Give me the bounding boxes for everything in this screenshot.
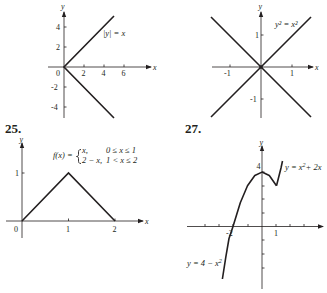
- brace-icon: [77, 150, 82, 164]
- tick-label: 1: [66, 225, 70, 234]
- tick-label: 2: [56, 43, 60, 52]
- case-1-expr: x,: [81, 145, 88, 155]
- y-axis-label: y: [259, 138, 264, 147]
- x-axis-label: x: [314, 63, 319, 72]
- equation-label: y² = x²: [274, 19, 298, 29]
- tick-label: -4: [51, 103, 58, 112]
- graph-abs-y-equals-x: y x 0 2 4 6 4 2 -2 -4 |y| = x: [48, 2, 157, 118]
- tick-label: -1: [250, 95, 257, 104]
- equation-label: |y| = x: [103, 28, 125, 38]
- function-lhs: f(x) =: [53, 150, 73, 160]
- graph-piecewise-quadratic: y -2 1 4 y = x2+ 2x y = 4 − x2: [186, 138, 323, 289]
- tick-label: 4: [257, 162, 261, 171]
- case-2-expr: 2 − x,: [82, 155, 102, 165]
- curve-4-minus-x-squared: [222, 172, 276, 279]
- case-2-cond: 1 < x ≤ 2: [106, 155, 138, 165]
- triangle-curve: [22, 173, 115, 221]
- x-axis-label: x: [144, 217, 149, 226]
- tick-label: 1: [15, 169, 19, 178]
- tick-label: 4: [102, 69, 106, 78]
- graph-piecewise-triangle: y x 0 1 2 1 f(x) = x, 0 ≤ x ≤ 1 2 − x, 1…: [6, 135, 149, 238]
- equation-upper-label: y = x2+ 2x: [284, 162, 322, 173]
- problem-number-27: 27.: [185, 121, 201, 136]
- tick-label: -1: [224, 69, 231, 78]
- figure-canvas: y x 0 2 4 6 4 2 -2 -4 |y| = x y x -1 1 1…: [0, 0, 327, 293]
- y-axis-label: y: [19, 135, 24, 144]
- tick-label: 6: [122, 69, 126, 78]
- svg-text:y = x2+ 2x: y = x2+ 2x: [284, 162, 322, 173]
- tick-label: 0: [56, 69, 60, 78]
- tick-label: 1: [255, 31, 259, 40]
- problem-number-25: 25.: [5, 121, 21, 136]
- y-axis-label: y: [60, 2, 65, 11]
- tick-label: 0: [14, 225, 18, 234]
- piecewise-definition: f(x) = x, 0 ≤ x ≤ 1 2 − x, 1 < x ≤ 2: [53, 145, 138, 165]
- x-axis-label: x: [152, 63, 157, 72]
- equation-lower-label: y = 4 − x2: [186, 258, 222, 269]
- svg-text:y = 4 − x2: y = 4 − x2: [186, 258, 222, 269]
- case-1-cond: 0 ≤ x ≤ 1: [106, 145, 136, 155]
- tick-label: 4: [56, 23, 60, 32]
- origin-point: [259, 65, 263, 69]
- tick-label: 1: [290, 69, 294, 78]
- graph-y-squared-equals-x-squared: y x -1 1 1 -1 y² = x²: [211, 2, 319, 118]
- tick-label: -2: [226, 229, 233, 238]
- tick-label: -2: [51, 83, 58, 92]
- tick-label: 2: [82, 69, 86, 78]
- y-axis-label: y: [258, 2, 263, 11]
- curve-x-squared-plus-2x: [277, 161, 283, 186]
- tick-label: 2: [113, 225, 117, 234]
- tick-label: 1: [274, 229, 278, 238]
